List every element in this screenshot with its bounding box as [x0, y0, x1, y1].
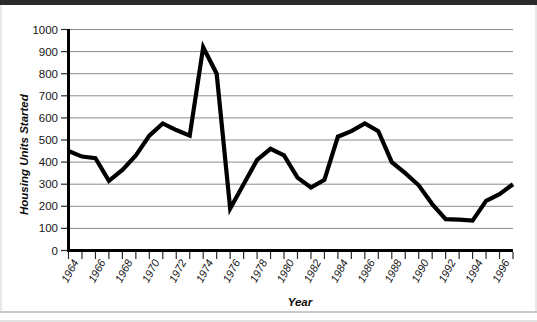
chart-figure: 01002003004005006007008009001000 1964196…: [0, 0, 537, 322]
x-axis-tick-labels: 1964196619681970197219741976197819801982…: [59, 257, 513, 285]
x-tick-label: 1966: [86, 257, 108, 285]
y-tick-label: 0: [52, 245, 58, 257]
y-tick-label: 400: [39, 156, 58, 168]
x-tick-label: 1994: [463, 257, 485, 284]
y-tick-label: 800: [39, 68, 58, 80]
gridlines-group: [69, 30, 514, 229]
x-tick-label: 1964: [59, 257, 81, 284]
x-tick-label: 1986: [355, 257, 377, 285]
y-tick-label: 900: [39, 46, 58, 58]
x-tick-label: 1980: [274, 257, 296, 285]
x-tick-label: 1978: [247, 257, 269, 285]
y-axis-tick-labels: 01002003004005006007008009001000: [32, 24, 68, 257]
x-tick-label: 1984: [328, 257, 350, 284]
x-tick-label: 1970: [139, 257, 161, 285]
x-tick-label: 1982: [301, 257, 323, 284]
x-tick-label: 1968: [113, 257, 135, 285]
x-tick-label: 1992: [436, 257, 458, 284]
x-tick-label: 1972: [166, 257, 188, 284]
y-tick-label: 700: [39, 90, 58, 102]
y-tick-label: 300: [39, 178, 58, 190]
x-tick-label: 1974: [193, 257, 215, 284]
y-tick-label: 1000: [32, 24, 58, 36]
x-tick-label: 1988: [382, 257, 404, 285]
x-tick-label: 1990: [409, 257, 431, 285]
y-tick-label: 200: [39, 200, 58, 212]
y-tick-label: 600: [39, 112, 58, 124]
y-axis-title: Housing Units Started: [18, 93, 30, 215]
x-axis-title: Year: [288, 296, 313, 308]
y-tick-label: 500: [39, 134, 58, 146]
x-tick-label: 1996: [490, 257, 512, 285]
y-tick-label: 100: [39, 222, 58, 234]
x-tick-label: 1976: [220, 257, 242, 285]
line-chart-plot: 01002003004005006007008009001000 1964196…: [0, 0, 537, 322]
